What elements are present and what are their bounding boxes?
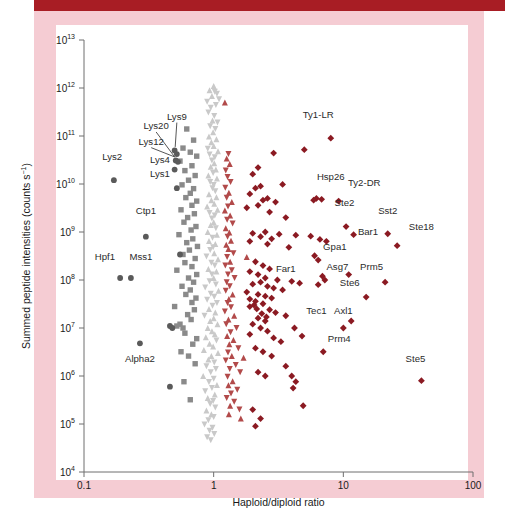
data-point [257,233,264,240]
data-point [207,247,213,253]
data-point [211,315,217,321]
point-label-ste5: Ste5 [406,353,426,364]
point-label-lys20: Lys20 [144,120,169,131]
data-point [348,318,355,325]
data-point [243,289,250,296]
x-tick-label: 10 [338,480,350,491]
data-point [214,382,220,388]
data-point [249,321,256,328]
data-point [223,225,229,231]
data-point [208,437,214,443]
data-point [292,378,299,385]
data-point [292,232,299,239]
data-point [192,211,197,216]
data-point [207,123,213,129]
data-point [238,416,244,422]
data-point [233,325,239,331]
data-point [244,254,250,260]
data-point [257,279,264,286]
data-point [270,335,277,342]
data-point [186,353,191,358]
data-point [249,230,256,237]
data-point [212,188,218,194]
data-point [282,214,289,221]
point-label-lys12: Lys12 [139,136,164,147]
data-point [205,173,211,179]
data-point [272,199,279,206]
point-label-ste2: Ste2 [335,197,355,208]
x-tick-label: 100 [465,480,482,491]
data-point [212,392,218,398]
data-point [111,177,117,183]
data-point [181,220,186,225]
data-point [204,203,210,209]
x-tick-label: 0.1 [77,480,91,491]
data-point [193,224,198,229]
data-point [246,268,253,275]
point-label-lys1: Lys1 [150,168,170,179]
scatter-plot: 0.11101001013101210111010109108107106105… [0,0,505,531]
data-point [225,203,231,209]
data-point [195,244,200,249]
data-point [167,384,173,390]
data-point [194,153,199,158]
data-point [350,231,357,238]
data-point [212,405,218,411]
data-point [260,300,267,307]
data-point [224,254,230,260]
data-point [249,281,256,288]
data-point [208,353,214,359]
data-point [213,337,219,343]
data-point [264,241,271,248]
data-point [255,164,262,171]
data-point [179,284,184,289]
data-point [222,208,228,214]
data-point [276,231,283,238]
data-point [194,272,199,277]
data-point [340,325,347,332]
data-point [243,204,250,211]
data-point [343,223,350,230]
data-point [234,387,240,393]
data-point [203,334,209,340]
data-point [202,421,208,427]
data-point [394,242,401,249]
data-point [285,244,292,251]
data-point [252,345,259,352]
data-point [230,250,236,256]
data-point [262,293,269,300]
data-point [183,195,188,200]
data-point [209,93,215,99]
data-point [290,385,297,392]
data-point [192,256,197,261]
data-point [268,353,275,360]
data-point [192,307,197,312]
data-point [278,338,285,345]
data-point [228,304,234,310]
data-point [223,358,229,364]
data-point [211,83,217,89]
data-point [180,145,185,150]
data-point [246,331,253,338]
point-label-alpha2: Alpha2 [125,353,155,364]
data-point [214,207,220,213]
data-point [190,236,195,241]
data-point [213,102,219,108]
point-label-ty1-lr: Ty1-LR [303,109,334,120]
data-point [224,333,230,339]
data-point [246,296,253,303]
data-point [176,232,181,237]
data-point [186,177,191,182]
data-point [216,96,222,102]
y-tick-label: 1012 [56,81,75,94]
y-tick-label: 109 [60,225,75,238]
data-point [203,408,209,414]
data-point [206,238,212,244]
data-point [279,287,286,294]
data-point [188,317,193,322]
data-point [212,263,218,269]
data-point [226,411,232,417]
data-point [177,252,183,258]
data-point [288,373,295,380]
data-point [211,250,217,256]
